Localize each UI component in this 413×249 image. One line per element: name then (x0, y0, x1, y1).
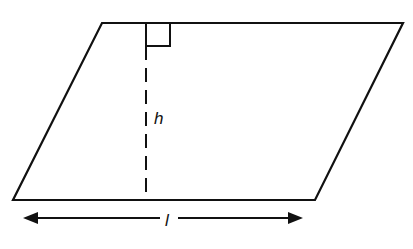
right-angle-marker (146, 23, 170, 46)
arrowhead-right-icon (288, 212, 303, 224)
parallelogram-diagram: h l (0, 0, 413, 249)
arrowhead-left-icon (23, 212, 38, 224)
height-label: h (154, 109, 163, 128)
length-label: l (165, 211, 170, 230)
parallelogram-shape (13, 23, 403, 200)
